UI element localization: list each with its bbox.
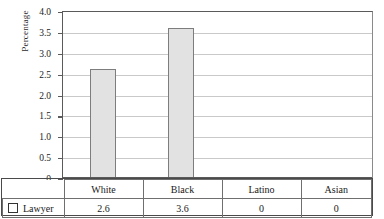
gridline [63, 54, 372, 55]
y-tick-label: 0.5 [39, 153, 51, 163]
y-tick: 3.5 [58, 33, 63, 34]
bar-white [90, 69, 116, 178]
y-tick: 2.5 [58, 75, 63, 76]
table-row: Lawyer 2.6 3.6 0 0 [3, 199, 372, 218]
y-tick: 2.0 [58, 96, 63, 97]
table-cell-white: 2.6 [64, 199, 143, 218]
bar-black [168, 28, 194, 178]
table-cell-asian: 0 [301, 199, 372, 218]
table-header-white: White [64, 180, 143, 199]
y-tick: 1.5 [58, 116, 63, 117]
y-tick-label: 1.0 [39, 132, 51, 142]
y-tick-label: 1.5 [39, 111, 51, 121]
y-tick-label: 2.5 [39, 70, 51, 80]
table-header-latino: Latino [222, 180, 301, 199]
y-tick-label: 3.5 [39, 28, 51, 38]
bar-chart-figure: Percentage 4.0 3.5 3.0 2.5 2.0 1.5 1.0 [0, 0, 384, 219]
y-tick: 4.0 [58, 12, 63, 13]
y-tick-label: 3.0 [39, 49, 51, 59]
table-cell-black: 3.6 [143, 199, 222, 218]
table-header-asian: Asian [301, 180, 372, 199]
y-axis-title: Percentage [18, 0, 32, 71]
legend-entry-lawyer: Lawyer [3, 199, 65, 218]
legend-swatch-icon [8, 203, 18, 213]
y-tick-label: 2.0 [39, 91, 51, 101]
gridline [63, 33, 372, 34]
plot-area: 4.0 3.5 3.0 2.5 2.0 1.5 1.0 0.5 0 [62, 11, 373, 178]
y-tick-label: 4.0 [39, 7, 51, 17]
y-tick: 0.5 [58, 158, 63, 159]
legend-label: Lawyer [23, 203, 54, 214]
table-header-row: White Black Latino Asian [3, 180, 372, 199]
table-corner-blank [3, 180, 65, 199]
y-tick: 3.0 [58, 54, 63, 55]
table-cell-latino: 0 [222, 199, 301, 218]
data-table: White Black Latino Asian Lawyer 2.6 3.6 … [1, 178, 373, 216]
table-header-black: Black [143, 180, 222, 199]
y-tick: 1.0 [58, 137, 63, 138]
